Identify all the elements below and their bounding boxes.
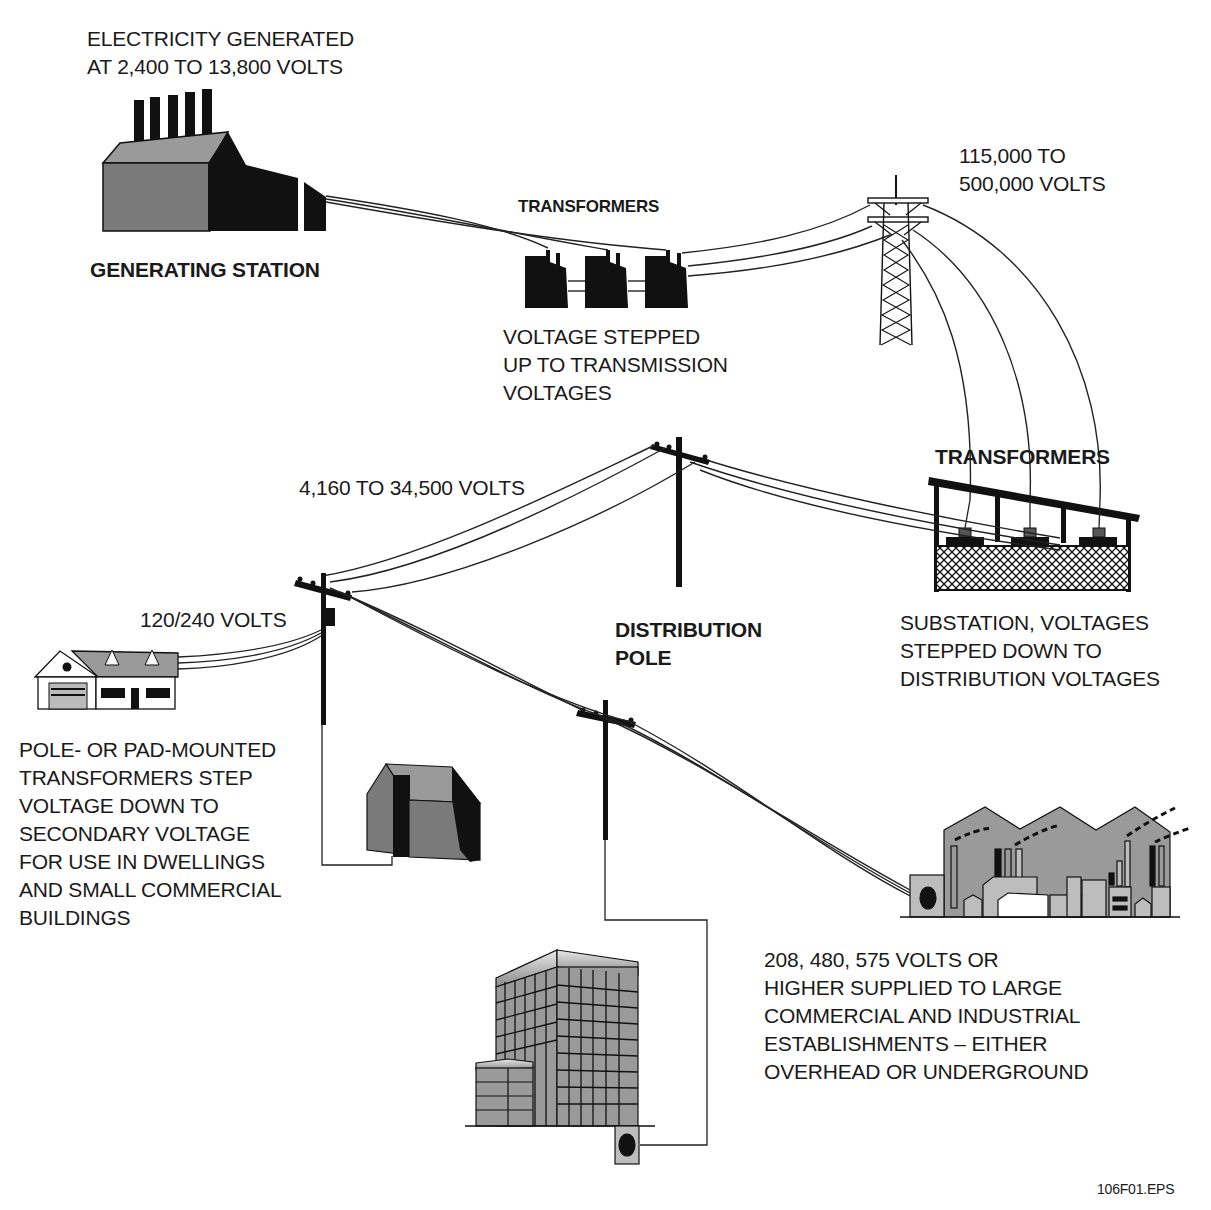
house-icon (35, 650, 178, 709)
distribution-wires-b (322, 445, 695, 592)
distribution-pole-icon (650, 437, 710, 587)
step-up-transformers-icon (525, 250, 688, 308)
secondary-voltage-note: 120/240 VOLTS (140, 606, 286, 634)
substation-transformers-label: TRANSFORMERS (935, 443, 1110, 471)
generation-voltage-note: ELECTRICITY GENERATED AT 2,400 TO 13,800… (87, 25, 354, 81)
office-tower-icon (465, 950, 655, 1164)
generating-station-label: GENERATING STATION (90, 256, 320, 284)
distribution-wires-a (690, 458, 1060, 550)
transmission-wires-a (682, 205, 890, 276)
transmission-voltage-note: 115,000 TO 500,000 VOLTS (959, 142, 1105, 198)
distribution-voltage-note: 4,160 TO 34,500 VOLTS (299, 474, 525, 502)
transmission-tower-icon (868, 175, 928, 345)
substation-note: SUBSTATION, VOLTAGES STEPPED DOWN TO DIS… (900, 609, 1160, 693)
generating-station-icon (103, 89, 326, 231)
industrial-supply-note: 208, 480, 575 VOLTS OR HIGHER SUPPLIED T… (764, 946, 1088, 1086)
industrial-plant-icon (900, 807, 1190, 917)
step-up-transformers-label: TRANSFORMERS (518, 198, 659, 216)
stepped-up-note: VOLTAGE STEPPED UP TO TRANSMISSION VOLTA… (503, 323, 728, 407)
pole-transformer-icon (294, 573, 352, 725)
service-drop-wires (178, 630, 321, 669)
distribution-pole-label: DISTRIBUTION POLE (615, 616, 762, 672)
pole-mounted-transformer-note: POLE- OR PAD-MOUNTED TRANSFORMERS STEP V… (19, 736, 281, 932)
figure-id: 106F01.EPS (1097, 1180, 1174, 1198)
small-building-icon (367, 764, 480, 862)
